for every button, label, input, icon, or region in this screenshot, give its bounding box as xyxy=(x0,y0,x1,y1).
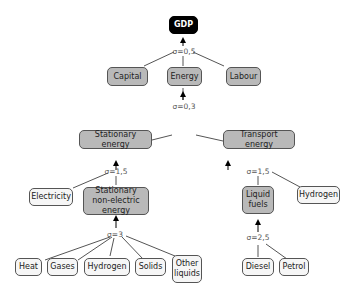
node-transport-energy: Transport energy xyxy=(223,130,295,149)
elasticity-transport: σ=1,5 xyxy=(247,167,270,176)
node-gdp: GDP xyxy=(169,16,198,34)
node-capital: Capital xyxy=(107,67,148,86)
node-gases: Gases xyxy=(47,258,78,276)
elasticity-stationary: σ=1,5 xyxy=(105,167,128,176)
elasticity-gdp: σ=0,5 xyxy=(173,47,196,56)
node-electricity: Electricity xyxy=(29,188,73,206)
node-stationary-energy: Stationary energy xyxy=(79,130,152,149)
node-stationary-non-electric: Stationary non-electric energy xyxy=(83,187,149,215)
node-energy: Energy xyxy=(167,67,202,86)
node-solids: Solids xyxy=(135,258,166,276)
node-petrol: Petrol xyxy=(279,258,309,276)
node-other-liquids: Other liquids xyxy=(172,255,202,283)
node-labour: Labour xyxy=(226,67,261,86)
elasticity-non-electric: σ=3 xyxy=(107,230,123,239)
elasticity-liquid-fuels: σ=2,5 xyxy=(247,233,270,242)
node-hydrogen-transport: Hydrogen xyxy=(297,186,340,204)
node-liquid-fuels: Liquid fuels xyxy=(242,186,274,214)
node-heat: Heat xyxy=(15,258,42,276)
edges xyxy=(0,0,362,296)
node-diesel: Diesel xyxy=(242,258,274,276)
elasticity-energy: σ=0,3 xyxy=(173,102,196,111)
node-hydrogen-stationary: Hydrogen xyxy=(84,258,130,276)
